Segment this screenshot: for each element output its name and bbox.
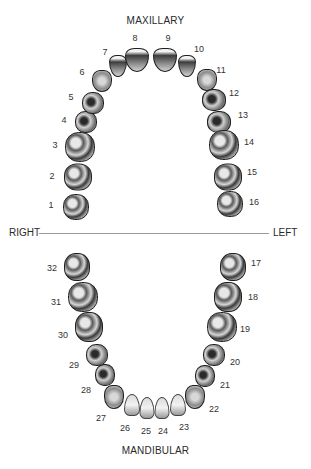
tooth-number-label: 29 — [69, 360, 79, 370]
tooth-21 — [195, 365, 215, 387]
tooth-number-label: 3 — [52, 140, 57, 150]
tooth-17 — [220, 253, 246, 281]
tooth-23 — [170, 394, 186, 416]
tooth-8 — [125, 48, 149, 72]
tooth-3 — [65, 132, 95, 162]
tooth-number-label: 31 — [51, 297, 61, 307]
tooth-number-label: 5 — [68, 92, 73, 102]
tooth-number-label: 10 — [194, 44, 204, 54]
tooth-2 — [64, 164, 92, 191]
tooth-12 — [202, 89, 226, 111]
tooth-4 — [75, 111, 97, 133]
tooth-number-label: 14 — [244, 137, 254, 147]
tooth-20 — [203, 344, 225, 366]
tooth-number-label: 17 — [251, 258, 261, 268]
tooth-number-label: 7 — [102, 47, 107, 57]
tooth-number-label: 18 — [248, 292, 258, 302]
mandibular-title: MANDIBULAR — [0, 445, 311, 456]
tooth-18 — [214, 282, 242, 312]
tooth-number-label: 2 — [49, 171, 54, 181]
tooth-11 — [197, 69, 217, 91]
tooth-22 — [185, 385, 205, 409]
tooth-16 — [217, 191, 243, 217]
tooth-number-label: 21 — [220, 380, 230, 390]
tooth-28 — [95, 364, 115, 386]
right-label: RIGHT — [9, 227, 40, 238]
tooth-number-label: 13 — [238, 110, 248, 120]
tooth-6 — [92, 70, 112, 92]
tooth-10 — [178, 55, 196, 77]
tooth-number-label: 32 — [47, 263, 57, 273]
tooth-27 — [104, 385, 124, 409]
midline-divider — [39, 233, 269, 234]
tooth-24 — [155, 397, 170, 419]
tooth-number-label: 15 — [247, 167, 257, 177]
tooth-31 — [68, 282, 98, 312]
tooth-15 — [214, 164, 242, 191]
tooth-26 — [124, 394, 140, 416]
tooth-number-label: 24 — [158, 426, 168, 436]
tooth-30 — [75, 312, 103, 342]
tooth-25 — [140, 397, 155, 419]
tooth-number-label: 27 — [96, 413, 106, 423]
left-label: LEFT — [273, 227, 297, 238]
tooth-number-label: 9 — [165, 33, 170, 43]
tooth-number-label: 23 — [179, 422, 189, 432]
tooth-number-label: 16 — [249, 197, 259, 207]
tooth-number-label: 30 — [58, 330, 68, 340]
tooth-1 — [63, 194, 89, 220]
tooth-number-label: 19 — [240, 324, 250, 334]
tooth-number-label: 6 — [79, 67, 84, 77]
tooth-5 — [82, 92, 104, 114]
tooth-32 — [64, 253, 90, 281]
maxillary-title: MAXILLARY — [0, 15, 311, 26]
tooth-number-label: 26 — [120, 423, 130, 433]
tooth-number-label: 25 — [141, 426, 151, 436]
tooth-9 — [153, 48, 177, 72]
tooth-number-label: 22 — [209, 404, 219, 414]
tooth-14 — [209, 130, 239, 160]
tooth-number-label: 1 — [48, 200, 53, 210]
tooth-19 — [207, 312, 237, 342]
tooth-number-label: 11 — [216, 65, 225, 75]
tooth-number-label: 8 — [132, 33, 137, 43]
tooth-number-label: 20 — [230, 357, 240, 367]
tooth-number-label: 28 — [81, 385, 91, 395]
tooth-number-label: 4 — [61, 115, 66, 125]
tooth-29 — [86, 344, 108, 366]
tooth-number-label: 12 — [229, 88, 239, 98]
